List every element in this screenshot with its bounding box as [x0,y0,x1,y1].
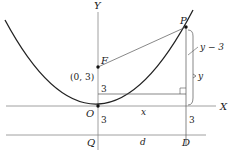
brace-label-y-minus-3: y − 3 [199,42,224,52]
parabola-curve [5,10,193,104]
dist-x: x [141,107,146,117]
focus-coords-label: (0, 3) [70,72,94,82]
dist-axis-directrix: 3 [189,115,195,125]
brace-y-tip [193,74,196,78]
p-label: P [179,15,187,26]
focus-point [96,65,99,68]
brace-y [188,30,193,105]
q-label: Q [87,137,95,148]
d-point-label: D [181,137,190,148]
dist-d: d [140,137,146,147]
right-angle-marker [180,88,186,94]
dist-f-o: 3 [101,84,107,94]
origin-point [96,104,99,107]
brace-label-y: y [197,71,204,81]
y-axis-label: Y [94,0,102,11]
x-axis-label: X [219,101,228,112]
focus-label: F [100,55,109,66]
parabola-diagram: Y X F (0, 3) P O Q D 3 3 3 x d y − 3 y [0,0,234,152]
dist-o-q: 3 [101,115,107,125]
origin-label: O [86,108,94,119]
focus-to-p-line [98,27,186,67]
